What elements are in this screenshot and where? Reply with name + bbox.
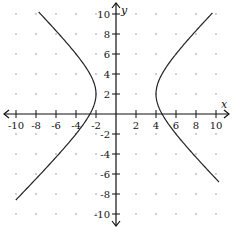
grid-dot <box>135 93 136 94</box>
x-tick-label: 6 <box>173 120 179 131</box>
grid-dot <box>135 13 136 14</box>
grid-dot <box>215 193 216 194</box>
grid-dot <box>135 33 136 34</box>
grid-dot <box>75 33 76 34</box>
grid-dot <box>35 213 36 214</box>
hyperbola-graph: -10-8-6-4-2246810108642-2-4-6-8-10 x y <box>0 0 232 228</box>
grid-dot <box>35 13 36 14</box>
y-tick-label: -4 <box>100 149 110 160</box>
grid-dot <box>155 73 156 74</box>
grid-dot <box>215 33 216 34</box>
grid-dot <box>75 193 76 194</box>
grid-dot <box>55 73 56 74</box>
grid-dot <box>55 133 56 134</box>
grid-dot <box>75 13 76 14</box>
grid-dot <box>75 173 76 174</box>
grid-dot <box>175 73 176 74</box>
grid-dot <box>135 193 136 194</box>
grid-dot <box>135 173 136 174</box>
grid-dot <box>15 33 16 34</box>
hyperbola-left-branch <box>16 12 96 200</box>
grid-dot <box>175 153 176 154</box>
grid-dot <box>155 53 156 54</box>
grid-dot <box>195 213 196 214</box>
grid-dot <box>155 173 156 174</box>
grid-dot <box>55 13 56 14</box>
grid-dot <box>15 133 16 134</box>
grid-dot <box>155 193 156 194</box>
grid-dot <box>175 93 176 94</box>
grid-dot <box>215 53 216 54</box>
y-tick-label: -10 <box>94 209 110 220</box>
grid-dot <box>215 93 216 94</box>
grid-dot <box>215 73 216 74</box>
grid-dot <box>35 173 36 174</box>
axes <box>4 3 229 226</box>
grid-dot <box>215 173 216 174</box>
grid-dot <box>135 73 136 74</box>
grid-dot <box>35 73 36 74</box>
grid-dot <box>135 213 136 214</box>
grid-dot <box>75 213 76 214</box>
grid-dot <box>215 213 216 214</box>
grid-dot <box>95 153 96 154</box>
grid-dot <box>75 93 76 94</box>
x-axis-label: x <box>221 98 228 111</box>
grid-dot <box>135 133 136 134</box>
grid-dot <box>195 153 196 154</box>
y-tick-label: 6 <box>104 49 110 60</box>
grid-dot <box>195 33 196 34</box>
y-tick-label: 8 <box>104 29 110 40</box>
grid-dot <box>35 33 36 34</box>
grid-dot <box>155 13 156 14</box>
grid-dot <box>155 33 156 34</box>
y-tick-label: 2 <box>104 89 110 100</box>
grid-dot <box>215 13 216 14</box>
grid-dot <box>155 133 156 134</box>
x-tick-label: 2 <box>133 120 139 131</box>
grid-dot <box>15 73 16 74</box>
grid-dot <box>55 153 56 154</box>
grid-dot <box>15 53 16 54</box>
grid-dot <box>195 53 196 54</box>
grid-dot <box>175 193 176 194</box>
grid-dot <box>55 193 56 194</box>
grid-dot <box>55 33 56 34</box>
grid-dot <box>35 193 36 194</box>
x-tick-label: -8 <box>31 120 41 131</box>
grid-dot <box>15 153 16 154</box>
hyperbola-right-branch <box>156 13 219 182</box>
grid-dot <box>215 133 216 134</box>
x-tick-label: 4 <box>153 120 159 131</box>
x-tick-label: -10 <box>8 120 24 131</box>
grid-dot <box>15 93 16 94</box>
grid-dot <box>55 93 56 94</box>
grid-dot <box>195 13 196 14</box>
grid-dot <box>35 133 36 134</box>
grid-dot <box>215 153 216 154</box>
grid-dot <box>95 173 96 174</box>
x-tick-label: -6 <box>51 120 61 131</box>
grid-dot <box>195 73 196 74</box>
grid-dot <box>175 173 176 174</box>
grid-dot <box>175 13 176 14</box>
grid-dot <box>35 93 36 94</box>
grid-dot <box>35 153 36 154</box>
grid-dot <box>15 173 16 174</box>
y-tick-label: -8 <box>100 189 110 200</box>
y-axis-label: y <box>120 4 128 17</box>
grid-dot <box>95 33 96 34</box>
coordinate-plane: -10-8-6-4-2246810108642-2-4-6-8-10 x y <box>0 0 232 228</box>
grid-dot <box>75 153 76 154</box>
grid-dot <box>175 33 176 34</box>
curves <box>16 12 219 200</box>
grid-dot <box>15 213 16 214</box>
grid-dot <box>95 133 96 134</box>
y-tick-label: 4 <box>104 69 110 80</box>
grid-dot <box>155 213 156 214</box>
y-tick-label: 10 <box>97 9 110 20</box>
grid-dot <box>15 193 16 194</box>
x-tick-label: 8 <box>193 120 199 131</box>
grid-dot <box>135 153 136 154</box>
grid-dot <box>95 193 96 194</box>
